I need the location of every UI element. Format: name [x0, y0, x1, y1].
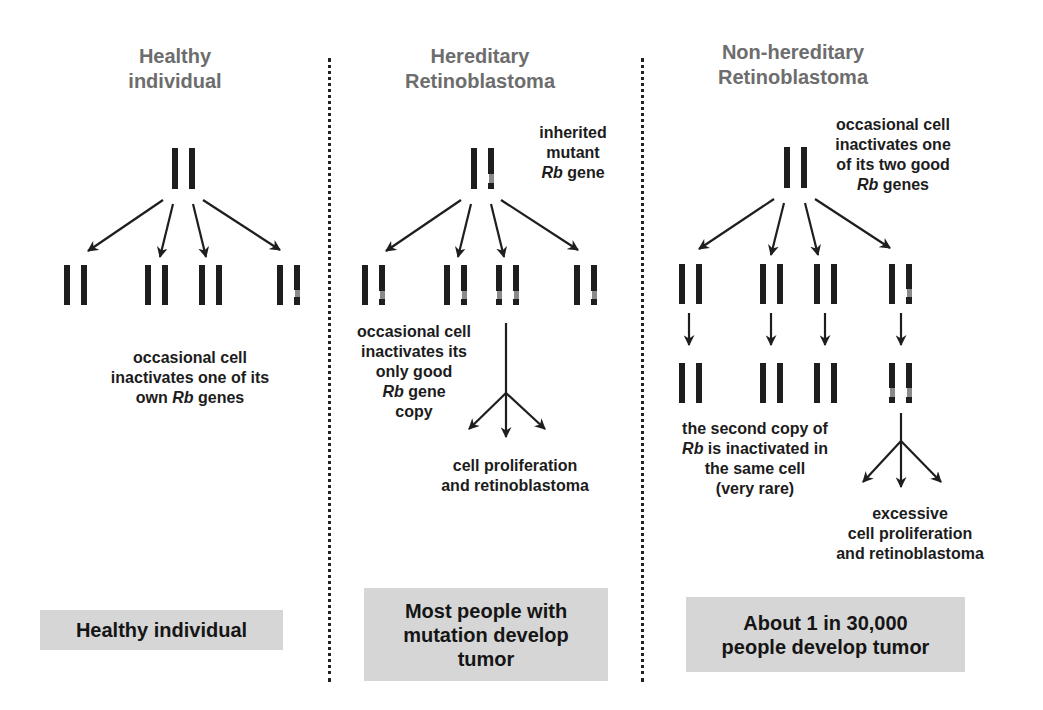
summary-box-healthy: Healthy individual — [40, 610, 283, 650]
summary-line: people develop tumor — [722, 635, 930, 659]
arrow-icon — [160, 204, 173, 257]
note-line: copy — [334, 402, 494, 422]
note-line: Rb gene — [334, 382, 494, 402]
note-line: cell proliferation — [415, 456, 615, 476]
chromosome-pair-nonhereditary-r1-3 — [814, 264, 837, 304]
arrow-icon — [88, 200, 163, 251]
note-line: and retinoblastoma — [810, 544, 1010, 564]
chromosome-pair-nonhereditary-r1-1 — [679, 264, 702, 304]
note-line: the same cell — [660, 459, 850, 479]
summary-line: Most people with — [403, 599, 569, 623]
arrow-icon — [193, 204, 206, 257]
note-line: mutant — [508, 143, 638, 163]
chromosome-pair-nonhereditary-r2-2 — [760, 363, 783, 403]
gene-name: Rb — [172, 389, 193, 406]
chromosome-pair-healthy-1 — [64, 265, 87, 305]
note-line: (very rare) — [660, 479, 850, 499]
note-line: inactivates one — [818, 135, 968, 155]
note-line: inactivates its — [334, 342, 494, 362]
note-text: is inactivated in — [703, 440, 827, 457]
chromosome-pair-parent-healthy — [172, 148, 195, 189]
note-line: cell proliferation — [810, 524, 1010, 544]
note-text: genes — [194, 389, 245, 406]
chromosome-pair-hereditary-1 — [362, 265, 385, 305]
chromosome-pair-nonhereditary-r2-1 — [679, 363, 702, 403]
note-hereditary-main: occasional cell inactivates its only goo… — [334, 322, 494, 422]
arrow-icon — [491, 204, 504, 257]
summary-box-nonhereditary: About 1 in 30,000 people develop tumor — [686, 597, 965, 672]
arrow-icon — [771, 203, 784, 255]
arrow-icon — [458, 204, 471, 257]
chromosome-pair-nonhereditary-r2-4-double-mutated — [889, 363, 912, 403]
chromosome-pair-hereditary-3-double-mutated — [496, 265, 519, 305]
note-healthy-main: occasional cell inactivates one of its o… — [60, 348, 320, 408]
summary-text: About 1 in 30,000 people develop tumor — [722, 611, 930, 659]
chromosome-pair-nonhereditary-r2-3 — [814, 363, 837, 403]
arrow-icon — [501, 200, 578, 250]
chromosome-pair-nonhereditary-r1-2 — [760, 264, 783, 304]
gene-name: Rb — [857, 176, 878, 193]
summary-line: About 1 in 30,000 — [722, 611, 930, 635]
chromosome-pair-healthy-3 — [199, 265, 222, 305]
arrow-icon — [386, 200, 461, 251]
summary-text: Healthy individual — [76, 618, 247, 642]
chromosome-pair-hereditary-2 — [444, 265, 467, 305]
note-line: inactivates one of its — [60, 368, 320, 388]
note-hereditary-outcome: cell proliferation and retinoblastoma — [415, 456, 615, 496]
note-text: genes — [878, 176, 929, 193]
summary-line: tumor — [403, 647, 569, 671]
note-line: own Rb genes — [60, 388, 320, 408]
summary-line: mutation develop — [403, 623, 569, 647]
chromosome-pair-parent-nonhereditary — [784, 147, 807, 188]
note-nonhereditary-top: occasional cell inactivates one of its t… — [818, 115, 968, 195]
gene-name: Rb — [382, 383, 403, 400]
note-line: Rb is inactivated in — [660, 439, 850, 459]
arrow-icon — [699, 199, 774, 249]
note-hereditary-top: inherited mutant Rb gene — [508, 123, 638, 183]
chromosome-pair-healthy-2 — [145, 265, 168, 305]
branch-arrows-nonhereditary — [863, 413, 941, 487]
note-text: gene — [404, 383, 446, 400]
arrow-icon — [203, 200, 280, 250]
summary-box-hereditary: Most people with mutation develop tumor — [364, 588, 608, 681]
note-line: excessive — [810, 504, 1010, 524]
chromosome-pair-nonhereditary-r1-4-mutated — [889, 264, 912, 304]
note-line: occasional cell — [818, 115, 968, 135]
note-nonhereditary-outcome: excessive cell proliferation and retinob… — [810, 504, 1010, 564]
chromosome-pair-parent-hereditary — [471, 148, 494, 189]
arrow-icon — [805, 203, 818, 255]
arrow-icon — [815, 199, 890, 248]
note-line: and retinoblastoma — [415, 476, 615, 496]
note-line: occasional cell — [60, 348, 320, 368]
note-line: occasional cell — [334, 322, 494, 342]
note-line: of its two good — [818, 155, 968, 175]
note-line: Rb genes — [818, 175, 968, 195]
chromosome-pair-healthy-4-mutated — [277, 265, 300, 305]
gene-name: Rb — [541, 164, 562, 181]
chromosome-pair-hereditary-4 — [574, 265, 597, 305]
note-line: Rb gene — [508, 163, 638, 183]
gene-name: Rb — [682, 440, 703, 457]
summary-text: Most people with mutation develop tumor — [403, 599, 569, 671]
note-line: only good — [334, 362, 494, 382]
note-line: inherited — [508, 123, 638, 143]
note-text: own — [136, 389, 172, 406]
note-line: the second copy of — [660, 419, 850, 439]
note-nonhereditary-main: the second copy of Rb is inactivated in … — [660, 419, 850, 499]
note-text: gene — [563, 164, 605, 181]
